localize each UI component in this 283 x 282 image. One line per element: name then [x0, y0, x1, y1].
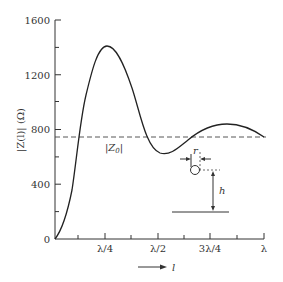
impedance-chart: 1600 1200 800 400 0 |Z(l)| (Ω) λ/4 λ/2 3… [0, 0, 283, 282]
y-tick-label-0: 0 [44, 234, 50, 245]
h-arrow-down-icon [211, 206, 215, 211]
z0-label: |Z0| [105, 142, 123, 155]
x-tick-label-half: λ/2 [150, 243, 166, 254]
x-tick-label-three-quarter: 3λ/4 [199, 243, 221, 254]
y-tick-label-1200: 1200 [25, 70, 50, 81]
r-label: r [193, 145, 199, 156]
y-tick-label-400: 400 [31, 179, 50, 190]
r-arrow-left-icon [186, 157, 191, 161]
r-arrow-right-icon [200, 157, 205, 161]
y-axis-title: |Z(l)| (Ω) [15, 108, 27, 152]
h-label: h [219, 185, 225, 196]
y-tick-label-800: 800 [31, 124, 50, 135]
x-tick-label-lambda: λ [261, 243, 268, 254]
x-axis-title: l [172, 262, 175, 273]
x-tick-label-quarter: λ/4 [97, 243, 113, 254]
conductor-circle-icon [191, 166, 200, 175]
impedance-curve [55, 46, 264, 239]
h-arrow-up-icon [211, 171, 215, 176]
y-tick-label-1600: 1600 [25, 15, 50, 26]
x-axis-arrow-icon [160, 265, 167, 270]
